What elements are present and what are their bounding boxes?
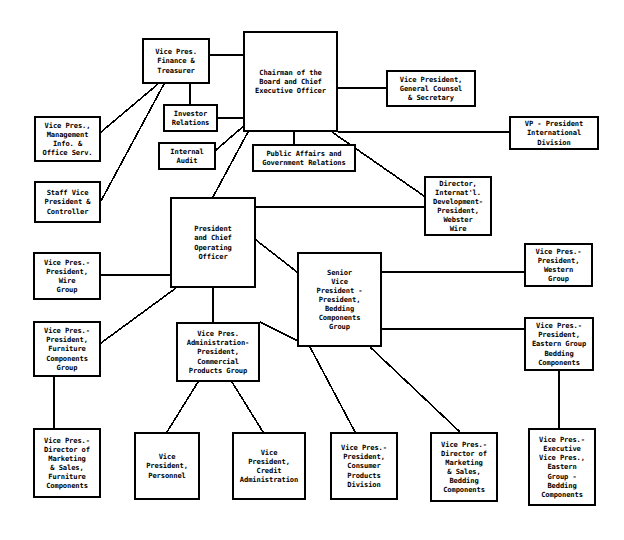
- org-node-label-vp_furniture_grp: Vice Pres.- President, Furniture Compone…: [38, 326, 96, 371]
- connector-internal_audit-to-chairman: [216, 124, 246, 150]
- org-node-label-senior_vp_bedding: Senior Vice President - President, Beddi…: [302, 268, 377, 332]
- org-node-label-public_affairs: Public Affairs and Government Relations: [257, 149, 351, 167]
- connector-senior_vp_bedding-to-vp_dir_mkt_bed: [370, 347, 460, 432]
- org-node-label-vp_western: Vice Pres.- President, Western Group: [529, 247, 588, 283]
- connector-senior_vp_bedding-to-vp_consumer: [310, 347, 355, 432]
- org-node-vp_consumer[interactable]: Vice Pres.- President, Consumer Products…: [330, 432, 398, 500]
- org-node-dir_intl_dev[interactable]: Director, Internat'l. Development- Presi…: [424, 176, 492, 236]
- org-node-investor_rel[interactable]: Investor Relations: [163, 104, 218, 132]
- org-node-vp_credit[interactable]: Vice President, Credit Administration: [232, 432, 306, 500]
- connector-vp_admin_comm-to-vp_credit: [232, 382, 263, 432]
- org-node-vp_dir_mkt_bed[interactable]: Vice Pres.- Director of Marketing & Sale…: [430, 432, 498, 502]
- org-node-label-internal_audit: Internal Audit: [163, 147, 211, 165]
- org-node-vp_mgmt_info[interactable]: Vice Pres., Management Info. & Office Se…: [34, 116, 101, 162]
- org-node-chairman[interactable]: Chairman of the Board and Chief Executiv…: [243, 31, 338, 132]
- connector-president_coo-to-vp_furniture_grp: [101, 288, 176, 343]
- org-node-label-vp_international: VP - President International Division: [514, 119, 594, 146]
- org-node-vp_international[interactable]: VP - President International Division: [509, 116, 599, 150]
- org-node-public_affairs[interactable]: Public Affairs and Government Relations: [252, 144, 356, 172]
- connector-vp_mgmt_info-to-vp_finance: [101, 84, 158, 132]
- org-node-vp_dir_mkt_furn[interactable]: Vice Pres.- Director of Marketing & Sale…: [33, 428, 101, 498]
- org-node-label-vp_eastern_bedding: Vice Pres.- President, Eastern Group Bed…: [529, 321, 589, 366]
- org-node-label-vp_personnel: Vice President, Personnel: [139, 452, 195, 479]
- org-node-label-vp_admin_comm: Vice Pres. Administration- President, Co…: [181, 329, 255, 374]
- org-node-vp_personnel[interactable]: Vice President, Personnel: [134, 432, 200, 500]
- connector-vp_admin_comm-to-vp_personnel: [167, 382, 198, 432]
- org-node-vp_wire_group[interactable]: Vice Pres.- President, Wire Group: [33, 252, 101, 300]
- org-node-president_coo[interactable]: President and Chief Operating Officer: [170, 197, 256, 288]
- org-node-vp_furniture_grp[interactable]: Vice Pres.- President, Furniture Compone…: [33, 321, 101, 377]
- org-chart-canvas: Chairman of the Board and Chief Executiv…: [0, 0, 624, 540]
- org-node-label-vp_dir_mkt_bed: Vice Pres.- Director of Marketing & Sale…: [435, 440, 493, 495]
- connector-staff_vp-to-vp_finance: [101, 84, 164, 201]
- org-node-vp_general_counsel[interactable]: Vice President, General Counsel & Secret…: [386, 70, 476, 107]
- org-node-vp_western[interactable]: Vice Pres.- President, Western Group: [524, 243, 593, 287]
- org-node-label-vp_finance: Vice Pres. Finance & Treasurer: [147, 47, 205, 74]
- org-node-label-vp_dir_mkt_furn: Vice Pres.- Director of Marketing & Sale…: [38, 436, 96, 491]
- org-node-vp_eastern_bedding[interactable]: Vice Pres.- President, Eastern Group Bed…: [524, 317, 594, 371]
- org-node-vp_finance[interactable]: Vice Pres. Finance & Treasurer: [142, 38, 210, 84]
- org-node-staff_vp[interactable]: Staff Vice President & Controller: [34, 181, 101, 223]
- org-node-label-vp_wire_group: Vice Pres.- President, Wire Group: [38, 258, 96, 294]
- org-node-label-investor_rel: Investor Relations: [168, 109, 213, 127]
- org-node-label-president_coo: President and Chief Operating Officer: [175, 224, 251, 260]
- org-node-internal_audit[interactable]: Internal Audit: [158, 142, 216, 170]
- org-node-vp_exec_eastern[interactable]: Vice Pres.- Executive Vice Pres., Easter…: [528, 428, 596, 506]
- org-node-label-dir_intl_dev: Director, Internat'l. Development- Presi…: [429, 179, 487, 234]
- connector-chairman-to-president_coo: [213, 132, 248, 197]
- org-node-label-vp_consumer: Vice Pres.- President, Consumer Products…: [335, 443, 393, 488]
- org-node-senior_vp_bedding[interactable]: Senior Vice President - President, Beddi…: [297, 252, 382, 347]
- org-node-vp_admin_comm[interactable]: Vice Pres. Administration- President, Co…: [176, 322, 260, 382]
- org-node-label-chairman: Chairman of the Board and Chief Executiv…: [248, 68, 333, 95]
- org-node-label-vp_exec_eastern: Vice Pres.- Executive Vice Pres., Easter…: [533, 435, 591, 499]
- connector-president_coo-to-senior_vp_bedding: [256, 240, 297, 272]
- org-node-label-vp_credit: Vice President, Credit Administration: [237, 448, 301, 484]
- org-node-label-staff_vp: Staff Vice President & Controller: [39, 188, 96, 215]
- org-node-label-vp_mgmt_info: Vice Pres., Management Info. & Office Se…: [39, 121, 96, 157]
- org-node-label-vp_general_counsel: Vice President, General Counsel & Secret…: [391, 75, 471, 102]
